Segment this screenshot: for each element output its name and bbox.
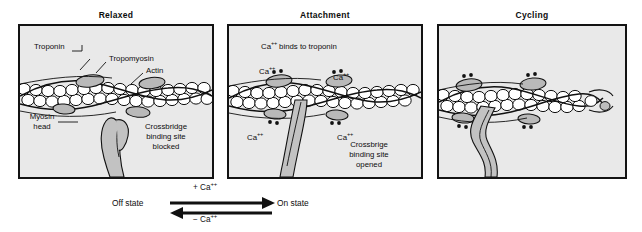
troponin-blob-2 [520,77,547,91]
muscle-contraction-figure: Relaxed Attachment Cycling [0,0,642,232]
panel-title-attachment: Attachment [227,10,423,20]
ca-heading-rest: binds to troponin [277,42,337,51]
troponin-blob-4 [326,109,349,121]
actin-filament [439,72,613,129]
label-crossbridge-blocked: Crossbridge binding site blocked [124,122,208,152]
leader-troponin-stem [80,59,90,70]
cycling-diagram [439,26,625,177]
panel-attachment: Ca++ binds to troponin Ca++ Ca++ Ca++ Ca… [227,24,423,179]
troponin-blob-1 [455,78,482,93]
crossbridge-blocked-line2: binding site [146,132,185,141]
panel-title-cycling: Cycling [437,10,627,20]
label-ca-lower-left: Ca++ [247,129,263,143]
crossbridge-blocked-line1: Crossbridge [145,122,187,131]
myosin-head-bent [471,106,498,177]
label-troponin: Troponin [34,42,64,52]
leader-tropomyosin [96,62,106,73]
forward-arrow [170,197,275,209]
label-ca-binds-to-troponin: Ca++ binds to troponin [261,38,337,52]
label-ca-upper-left: Ca++ [259,63,275,77]
label-ca-upper-right: Ca++ [333,69,349,83]
label-crossbridge-opened: Crossbrige binding site opened [323,140,415,170]
label-myosin-head-line1: Myosin [30,112,55,121]
label-myosin-head: Myosin head [22,112,62,132]
label-actin: Actin [146,66,163,76]
reaction-arrows [0,181,642,232]
crossbridge-opened-line3: opened [356,160,382,169]
reverse-arrow [170,207,272,219]
actin-filament [229,69,421,125]
state-reaction-diagram: Off state On state + Ca++ − Ca++ [0,181,642,232]
crossbridge-opened-line2: binding site [349,150,388,159]
crossbridge-blocked-line3: blocked [153,142,180,151]
leader-troponin [72,45,82,51]
troponin-blob-4 [126,106,151,118]
label-tropomyosin: Tropomyosin [109,54,154,64]
panel-cycling [437,24,627,179]
panel-title-relaxed: Relaxed [18,10,214,20]
panel-relaxed: Troponin Tropomyosin Actin Myosin head C… [18,24,214,179]
crossbridge-opened-line1: Crossbrige [350,140,388,149]
ca-heading-species: Ca [261,42,271,51]
label-myosin-head-line2: head [33,122,50,131]
